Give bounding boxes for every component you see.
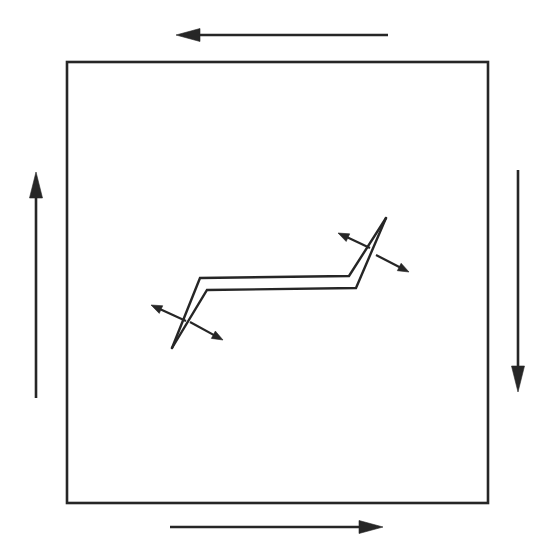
figure-root: Zigzag shear band within a square domain… [0,0,550,543]
diagram-canvas [0,0,550,543]
figure-background [0,0,550,543]
